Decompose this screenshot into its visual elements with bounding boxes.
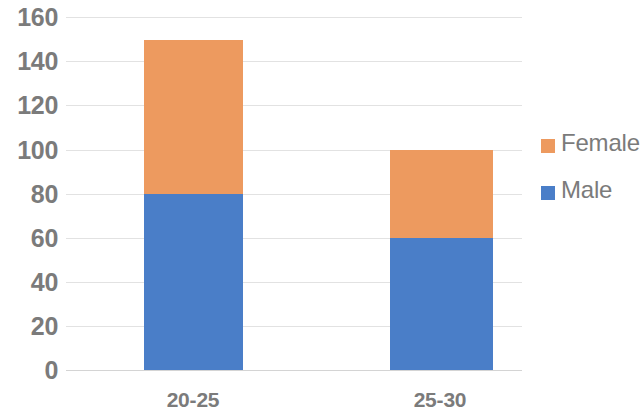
gridline-120	[66, 105, 522, 106]
legend-item-male[interactable]: Male	[538, 179, 641, 226]
x-tick-label-20-25: 20-25	[143, 388, 243, 412]
gridline-160	[66, 17, 522, 18]
legend-label-male: Male	[561, 176, 612, 204]
legend-item-female[interactable]: Female	[538, 132, 641, 179]
bar-segment-male-20-25[interactable]	[144, 194, 243, 370]
y-tick-label-160: 160	[0, 5, 58, 30]
y-tick-label-120: 120	[0, 93, 58, 118]
gridline-baseline-0	[66, 370, 522, 371]
y-tick-label-40: 40	[0, 270, 58, 295]
bar-segment-male-25-30[interactable]	[390, 238, 493, 370]
y-tick-label-80: 80	[0, 182, 58, 207]
y-tick-label-0: 0	[0, 358, 58, 383]
x-tick-label-25-30: 25-30	[390, 388, 490, 412]
legend: Female Male	[538, 132, 641, 226]
legend-swatch-male-icon	[541, 186, 555, 200]
y-tick-label-140: 140	[0, 49, 58, 74]
y-axis-tick-labels: 160 140 120 100 80 60 40 20 0	[0, 0, 58, 417]
y-tick-label-20: 20	[0, 314, 58, 339]
bar-segment-female-25-30[interactable]	[390, 150, 493, 238]
plot-area	[66, 17, 522, 370]
legend-swatch-female-icon	[541, 139, 555, 153]
stacked-bar-chart: 160 140 120 100 80 60 40 20 0 20-25 25-3…	[0, 0, 641, 417]
y-tick-label-100: 100	[0, 138, 58, 163]
y-tick-label-60: 60	[0, 226, 58, 251]
bar-segment-female-20-25[interactable]	[144, 40, 243, 194]
legend-label-female: Female	[561, 129, 640, 157]
gridline-140	[66, 61, 522, 62]
